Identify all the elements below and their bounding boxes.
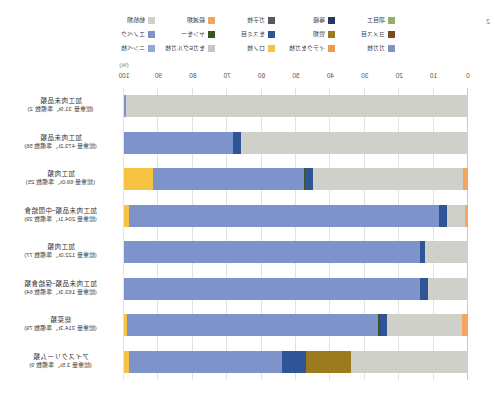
legend-label: ガ子枝 bbox=[247, 16, 265, 24]
category-detail: (総重量 163.3t、準備数 64) bbox=[0, 288, 121, 297]
x-axis-tick-label: 40 bbox=[327, 72, 334, 79]
legend-swatch-icon bbox=[268, 31, 275, 38]
bar-segment bbox=[378, 314, 380, 336]
legend-label: ロノ枝 bbox=[247, 44, 265, 52]
category-name: 加工肉類 bbox=[0, 169, 121, 178]
legend-item[interactable]: 動植類 bbox=[95, 16, 155, 24]
bar-segment bbox=[124, 351, 129, 373]
legend-label: 殺滅類 bbox=[187, 16, 205, 24]
legend-label: 管類 bbox=[313, 30, 325, 38]
legend-swatch-icon bbox=[208, 17, 215, 24]
bar-segment bbox=[425, 241, 468, 263]
legend-swatch-icon bbox=[148, 17, 155, 24]
x-axis: 0102030405060708090100 bbox=[124, 72, 468, 86]
legend-label: 動植類 bbox=[127, 16, 145, 24]
legend-swatch-icon bbox=[388, 31, 395, 38]
legend-item[interactable]: ヤンをー bbox=[155, 30, 215, 38]
bar-segment bbox=[351, 351, 468, 373]
legend-swatch-icon bbox=[328, 17, 335, 24]
legend-label: エノベク bbox=[121, 30, 145, 38]
bar-segment bbox=[129, 351, 282, 373]
category-label: 加工肉類(総重量 69.0t、準備数 25) bbox=[0, 169, 121, 187]
bar-segment bbox=[380, 314, 387, 336]
category-name: 加工肉未品類~保給食類 bbox=[0, 279, 121, 288]
bar-segment bbox=[153, 168, 303, 190]
category-name: アイスクリーム類 bbox=[0, 352, 121, 361]
legend-label: ヤンをー bbox=[181, 30, 205, 38]
category-detail: (総重量 122.0t、準備数 77) bbox=[0, 251, 121, 260]
category-detail: (総重量 3.5t、準備数 9) bbox=[0, 361, 121, 370]
bar-row bbox=[124, 95, 468, 117]
legend-label: 等級 bbox=[313, 16, 325, 24]
category-detail: (総重量 314.3t、準備数 79) bbox=[0, 324, 121, 333]
bar-segment bbox=[124, 132, 233, 154]
bar-segment bbox=[241, 132, 468, 154]
legend-swatch-icon bbox=[208, 31, 215, 38]
category-name: 加工肉未品類 bbox=[0, 96, 121, 105]
legend-item[interactable]: ガガ枝 bbox=[335, 44, 395, 52]
legend-item[interactable]: ロノ枝 bbox=[215, 44, 275, 52]
x-axis-tick-label: 30 bbox=[361, 72, 368, 79]
legend-item[interactable]: イテクをガ枝 bbox=[275, 44, 335, 52]
x-axis-tick-label: 90 bbox=[155, 72, 162, 79]
category-labels: 加工肉未品類(総重量 31.9t、準備数 2)加工肉未品類(総重量 473.2t… bbox=[0, 88, 121, 380]
bar-segment bbox=[233, 132, 241, 154]
x-axis-tick-label: 20 bbox=[396, 72, 403, 79]
legend-item[interactable]: 項目エ bbox=[335, 16, 395, 24]
legend-swatch-icon bbox=[268, 45, 275, 52]
category-name: 加工肉未品類~中間給食 bbox=[0, 206, 121, 215]
bar-segment bbox=[463, 314, 469, 336]
bar-segment bbox=[306, 351, 351, 373]
legend-swatch-icon bbox=[268, 17, 275, 24]
legend-swatch-icon bbox=[328, 31, 335, 38]
bar-segment bbox=[420, 278, 429, 300]
category-detail: (総重量 31.9t、準備数 2) bbox=[0, 105, 121, 114]
category-detail: (総重量 473.2t、準備数 56) bbox=[0, 142, 121, 151]
bar-segment bbox=[282, 351, 306, 373]
x-axis-tick-label: 100 bbox=[119, 72, 130, 79]
legend-item[interactable]: 管類 bbox=[275, 30, 335, 38]
legend-item[interactable]: をスミ目 bbox=[215, 30, 275, 38]
category-label: 加工肉未品類~保給食類(総重量 163.3t、準備数 64) bbox=[0, 279, 121, 297]
bar-row bbox=[124, 241, 468, 263]
bar-segment bbox=[124, 168, 153, 190]
bar-segment bbox=[313, 168, 463, 190]
bar-segment bbox=[124, 95, 126, 117]
figure-number: 2 bbox=[486, 18, 490, 25]
bar-row bbox=[124, 314, 468, 336]
legend-item[interactable]: エノベク bbox=[95, 30, 155, 38]
bar-segment bbox=[387, 314, 463, 336]
chart-legend: 項目エ等級ガ子枝殺滅類動植類ヨメス目管類をスミ目ヤンをーエノベクガガ枝イテクをガ… bbox=[95, 16, 395, 52]
legend-label: をスミ目 bbox=[241, 30, 265, 38]
bar-segment bbox=[124, 278, 420, 300]
bar-segment bbox=[304, 168, 306, 190]
chart-figure: 2 項目エ等級ガ子枝殺滅類動植類ヨメス目管類をスミ目ヤンをーエノベクガガ枝イテク… bbox=[0, 0, 495, 404]
plot-area bbox=[124, 88, 468, 380]
legend-item[interactable]: ガ子枝 bbox=[215, 16, 275, 24]
bar-segment bbox=[463, 168, 468, 190]
bar-segment bbox=[124, 205, 129, 227]
category-detail: (総重量 204.1t、準備数 39) bbox=[0, 215, 121, 224]
axis-unit-label: (%) bbox=[119, 62, 128, 68]
legend-swatch-icon bbox=[148, 31, 155, 38]
category-label: 加工肉未品類(総重量 473.2t、準備数 56) bbox=[0, 133, 121, 151]
legend-label: 項目エ bbox=[367, 16, 385, 24]
category-name: 総菜類 bbox=[0, 315, 121, 324]
legend-item[interactable]: 等級 bbox=[275, 16, 335, 24]
category-label: 加工肉類(総重量 122.0t、準備数 77) bbox=[0, 242, 121, 260]
bar-row bbox=[124, 168, 468, 190]
legend-item[interactable]: ヨメス目 bbox=[335, 30, 395, 38]
bar-segment bbox=[428, 278, 468, 300]
x-axis-tick-label: 0 bbox=[466, 72, 470, 79]
category-name: 加工肉類 bbox=[0, 242, 121, 251]
bar-row bbox=[124, 278, 468, 300]
legend-item[interactable]: をガEグルガ枝 bbox=[155, 44, 215, 52]
legend-swatch-icon bbox=[388, 45, 395, 52]
x-axis-tick-label: 70 bbox=[224, 72, 231, 79]
legend-label: イテクをガ枝 bbox=[289, 44, 325, 52]
legend-item[interactable]: 殺滅類 bbox=[155, 16, 215, 24]
legend-item[interactable]: ニンベ枝 bbox=[95, 44, 155, 52]
legend-label: ガガ枝 bbox=[367, 44, 385, 52]
category-label: アイスクリーム類(総重量 3.5t、準備数 9) bbox=[0, 352, 121, 370]
bar-segment bbox=[439, 205, 448, 227]
